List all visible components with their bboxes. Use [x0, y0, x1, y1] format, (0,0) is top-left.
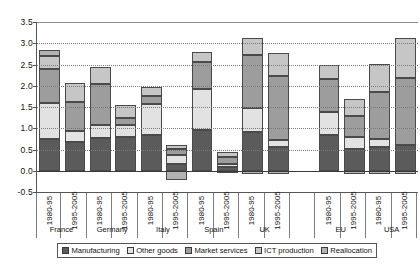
gridline-1.0	[37, 128, 418, 129]
legend-label: Manufacturing	[72, 246, 120, 255]
bar-segment-ict-production	[217, 152, 238, 157]
country-label-spain: Spain	[188, 225, 239, 234]
legend-item-other-goods[interactable]: Other goods	[127, 246, 178, 255]
bar-segment-market-services	[242, 55, 263, 108]
country-label-eu: EU	[315, 225, 366, 234]
bar-segment-manufacturing	[141, 135, 162, 171]
gridline-2.0	[37, 86, 418, 87]
legend-swatch-icon	[127, 247, 134, 254]
y-tick-label: 0.5	[5, 145, 33, 155]
bar-segment-ict-production	[39, 56, 60, 69]
legend-item-ict-production[interactable]: ICT production	[255, 246, 314, 255]
bar-segment-manufacturing	[242, 132, 263, 171]
legend-swatch-icon	[321, 247, 328, 254]
bar-segment-market-services	[217, 157, 238, 165]
y-tick-label: 1.5	[5, 102, 33, 112]
y-tick-mark	[33, 22, 37, 23]
y-tick-mark	[33, 107, 37, 108]
y-tick-label: 2.0	[5, 81, 33, 91]
bar-segment-ict-production	[242, 38, 263, 55]
bar-segment-manufacturing	[344, 149, 365, 171]
country-label-uk: UK	[239, 225, 290, 234]
legend-swatch-icon	[62, 247, 69, 254]
bar-segment-ict-production	[319, 65, 340, 80]
legend-label: Other goods	[136, 246, 178, 255]
y-tick-mark	[33, 128, 37, 129]
y-tick-mark	[33, 171, 37, 172]
country-label-italy: Italy	[138, 225, 189, 234]
bar-segment-other-goods	[344, 137, 365, 148]
gridline-2.5	[37, 65, 418, 66]
period-label: 1995-2005	[221, 191, 230, 229]
period-label: 1995-2005	[399, 191, 408, 229]
period-label: 1995-2005	[69, 191, 78, 229]
period-label: 1980-95	[196, 196, 205, 225]
period-label: 1980-95	[145, 196, 154, 225]
bar-segment-market-services	[90, 84, 111, 124]
bar-segment-ict-production	[90, 67, 111, 84]
gridline-3.0	[37, 43, 418, 44]
period-label: 1995-2005	[171, 191, 180, 229]
bar-segment-manufacturing	[268, 147, 289, 170]
legend-item-market-services[interactable]: Market services	[185, 246, 248, 255]
period-label: 1995-2005	[272, 191, 281, 229]
country-label-usa: USA	[366, 225, 417, 234]
y-tick-mark	[33, 86, 37, 87]
y-tick-mark	[33, 65, 37, 66]
period-label: 1980-95	[323, 196, 332, 225]
bar-segment-market-services	[141, 96, 162, 105]
bar-segment-manufacturing	[369, 147, 390, 170]
bar-segment-manufacturing	[319, 135, 340, 171]
legend-label: ICT production	[264, 246, 314, 255]
bar-segment-manufacturing	[90, 138, 111, 171]
bar-segment-market-services	[369, 92, 390, 139]
bar-segment-other-goods	[141, 104, 162, 135]
y-tick-mark	[33, 43, 37, 44]
bar-segment-other-goods	[166, 155, 187, 164]
y-tick-label: 3.0	[5, 38, 33, 48]
bar-segment-other-goods	[115, 125, 136, 137]
bar-segment-other-goods	[369, 139, 390, 148]
y-tick-mark	[33, 150, 37, 151]
bar-segment-ict-production	[192, 52, 213, 63]
legend-label: Market services	[194, 246, 247, 255]
legend-label: Reallocation	[330, 246, 372, 255]
period-label: 1995-2005	[348, 191, 357, 229]
bar-segment-manufacturing	[65, 142, 86, 171]
country-label-france: France	[36, 225, 87, 234]
legend-swatch-icon	[185, 247, 192, 254]
country-label-germany: Germany	[87, 225, 138, 234]
bar-segment-market-services	[115, 118, 136, 125]
bar-segment-market-services	[344, 116, 365, 137]
bar-segment-ict-production	[141, 87, 162, 96]
bar-segment-reallocation	[39, 50, 60, 56]
bar-segment-other-goods	[192, 89, 213, 129]
legend: ManufacturingOther goodsMarket servicesI…	[57, 243, 377, 258]
period-label: 1980-95	[94, 196, 103, 225]
bar-segment-ict-production	[369, 64, 390, 92]
gridline-3.5	[37, 22, 418, 23]
bar-segment-other-goods	[319, 112, 340, 135]
bar-segment-manufacturing	[39, 139, 60, 171]
gridline-0.0	[37, 171, 418, 172]
legend-swatch-icon	[255, 247, 262, 254]
y-tick-label: -0.5	[5, 187, 33, 197]
bar-segment-reallocation	[166, 171, 187, 180]
bar-segment-other-goods	[39, 103, 60, 139]
bar-segment-other-goods	[268, 140, 289, 148]
y-tick-label: 1.0	[5, 123, 33, 133]
bar-segment-market-services	[395, 78, 416, 145]
bar-segment-other-goods	[90, 125, 111, 138]
y-tick-label: 2.5	[5, 60, 33, 70]
y-tick-label: 0.0	[5, 166, 33, 176]
bar-segment-ict-production	[166, 145, 187, 149]
stacked-bar-chart: 3.53.02.52.01.51.00.50.0-0.5 1980-951995…	[0, 0, 420, 268]
legend-item-reallocation[interactable]: Reallocation	[321, 246, 372, 255]
gridline-1.5	[37, 107, 418, 108]
gridline-0.5	[37, 150, 418, 151]
legend-item-manufacturing[interactable]: Manufacturing	[62, 246, 120, 255]
y-tick-label: 3.5	[5, 17, 33, 27]
period-label: 1995-2005	[120, 191, 129, 229]
period-label: 1980-95	[247, 196, 256, 225]
x-axis-country-strip: FranceGermanyItalySpainUKEUUSA	[36, 225, 417, 237]
